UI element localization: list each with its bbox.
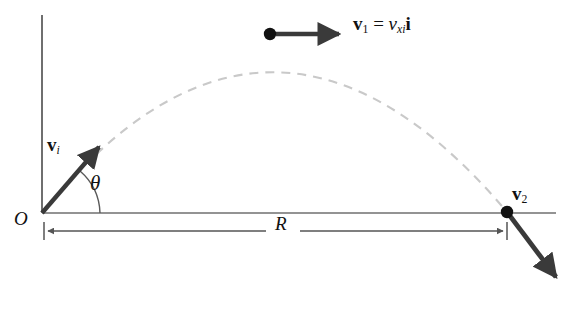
apex-velocity-equals: = bbox=[373, 13, 384, 34]
trajectory-path bbox=[42, 72, 507, 213]
final-velocity-subscript: 2 bbox=[522, 193, 528, 206]
apex-velocity-component: v bbox=[389, 13, 397, 34]
final-velocity-symbol: v bbox=[512, 183, 522, 204]
launch-angle-label: θ bbox=[90, 173, 100, 194]
initial-velocity-symbol: v bbox=[47, 134, 57, 155]
apex-point bbox=[264, 28, 276, 40]
apex-velocity-symbol: v bbox=[353, 13, 363, 34]
initial-velocity-label: vi bbox=[47, 135, 60, 154]
apex-velocity-subscript: 1 bbox=[363, 23, 369, 36]
landing-point bbox=[501, 206, 513, 218]
apex-velocity-unit-vector: i bbox=[406, 13, 411, 34]
projectile-motion-figure: O vi θ v1 = vxii v2 R bbox=[0, 0, 571, 312]
final-velocity-label: v2 bbox=[512, 184, 527, 203]
origin-label: O bbox=[14, 209, 28, 228]
figure-canvas bbox=[0, 0, 571, 312]
apex-velocity-label: v1 = vxii bbox=[353, 14, 411, 33]
initial-velocity-subscript: i bbox=[57, 144, 60, 157]
final-velocity-vector bbox=[507, 212, 556, 277]
range-label: R bbox=[275, 214, 287, 233]
apex-velocity-component-subscript: xi bbox=[397, 23, 406, 36]
